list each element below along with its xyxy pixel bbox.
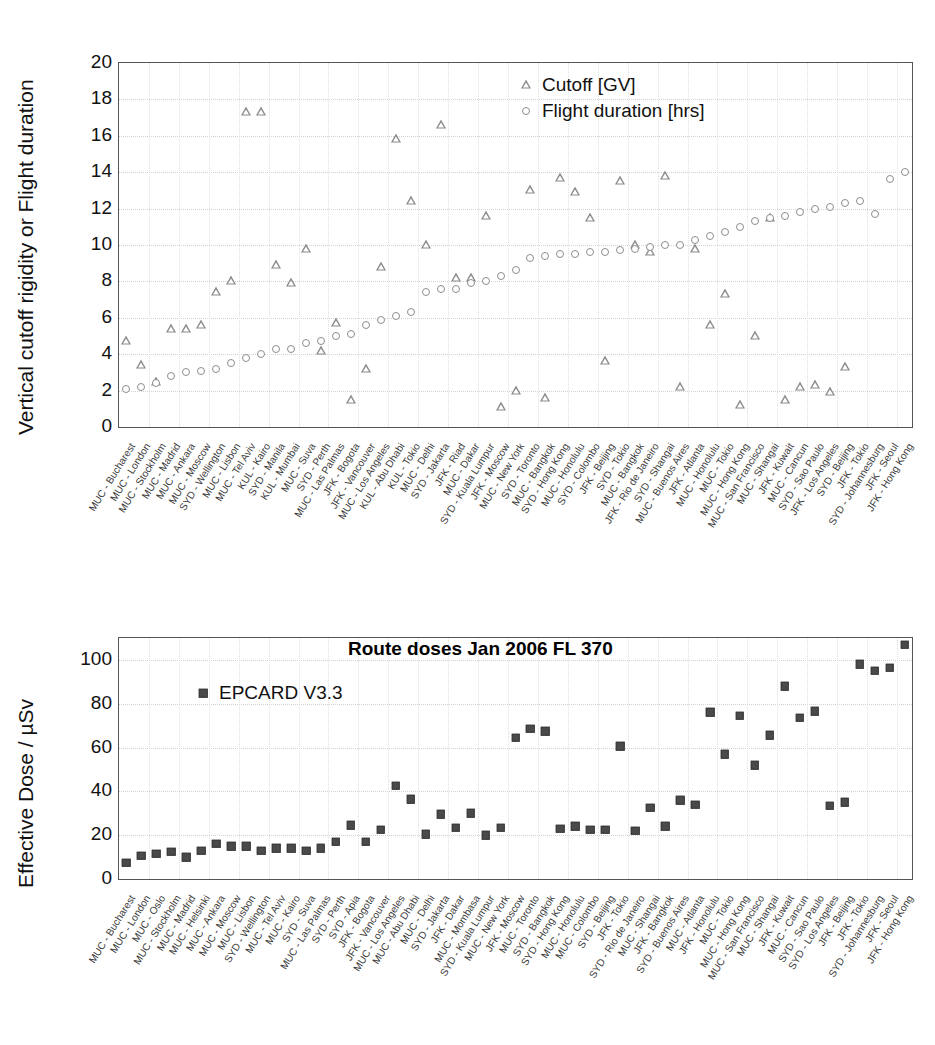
gridline-vertical bbox=[688, 638, 689, 879]
gridline-vertical bbox=[299, 63, 300, 427]
gridline-vertical bbox=[299, 638, 300, 879]
bottom-chart-x-tick-labels: MUC - BucharestMUC - LondonMUC - OsloMUC… bbox=[118, 884, 913, 1014]
data-point-circle bbox=[512, 266, 520, 274]
data-point-square bbox=[122, 858, 131, 867]
data-point-triangle bbox=[136, 360, 146, 369]
data-point-circle bbox=[616, 246, 624, 254]
data-point-triangle bbox=[750, 331, 760, 340]
data-point-circle bbox=[886, 175, 894, 183]
legend-label-cutoff: Cutoff [GV] bbox=[542, 74, 636, 96]
data-point-square bbox=[332, 838, 341, 847]
data-point-triangle bbox=[735, 400, 745, 409]
data-point-circle bbox=[227, 359, 235, 367]
data-point-triangle bbox=[391, 134, 401, 143]
gridline-vertical bbox=[867, 63, 868, 427]
data-point-circle bbox=[197, 367, 205, 375]
gridline-vertical bbox=[867, 638, 868, 879]
data-point-triangle bbox=[511, 385, 521, 394]
data-point-square bbox=[436, 810, 445, 819]
gridline-vertical bbox=[897, 638, 898, 879]
data-point-triangle bbox=[256, 107, 266, 116]
data-point-square bbox=[556, 824, 565, 833]
data-point-square bbox=[661, 822, 670, 831]
data-point-square bbox=[197, 846, 206, 855]
gridline-vertical bbox=[807, 63, 808, 427]
data-point-square bbox=[541, 727, 550, 736]
data-point-circle bbox=[631, 245, 639, 253]
data-point-square bbox=[676, 796, 685, 805]
data-point-circle bbox=[706, 232, 714, 240]
gridline-vertical bbox=[209, 638, 210, 879]
gridline-vertical bbox=[538, 638, 539, 879]
gridline-vertical bbox=[358, 638, 359, 879]
gridline-vertical bbox=[269, 63, 270, 427]
y-tick-label: 16 bbox=[91, 124, 112, 146]
gridline-vertical bbox=[837, 63, 838, 427]
data-point-circle bbox=[392, 312, 400, 320]
bottom-chart-title: Route doses Jan 2006 FL 370 bbox=[348, 638, 613, 660]
data-point-triangle bbox=[301, 243, 311, 252]
legend-label-flight-duration: Flight duration [hrs] bbox=[542, 100, 705, 122]
data-point-triangle bbox=[421, 240, 431, 249]
data-point-square bbox=[855, 660, 864, 669]
gridline-vertical bbox=[358, 63, 359, 427]
data-point-circle bbox=[736, 223, 744, 231]
data-point-triangle bbox=[585, 212, 595, 221]
gridline-vertical bbox=[269, 638, 270, 879]
data-point-triangle bbox=[406, 196, 416, 205]
data-point-circle bbox=[407, 308, 415, 316]
data-point-square bbox=[421, 830, 430, 839]
data-point-circle bbox=[796, 208, 804, 216]
data-point-circle bbox=[437, 285, 445, 293]
data-point-triangle bbox=[705, 320, 715, 329]
figure-root: Vertical cutoff rigidity or Flight durat… bbox=[0, 0, 935, 1045]
gridline-vertical bbox=[328, 63, 329, 427]
data-point-triangle bbox=[181, 323, 191, 332]
gridline-vertical bbox=[179, 638, 180, 879]
data-point-triangle bbox=[331, 318, 341, 327]
data-point-square bbox=[721, 750, 730, 759]
data-point-square bbox=[900, 640, 909, 649]
data-point-triangle bbox=[196, 320, 206, 329]
data-point-triangle bbox=[346, 394, 356, 403]
data-point-circle bbox=[751, 217, 759, 225]
circle-marker-icon bbox=[519, 104, 533, 118]
data-point-square bbox=[481, 831, 490, 840]
data-point-square bbox=[317, 844, 326, 853]
data-point-square bbox=[586, 825, 595, 834]
data-point-square bbox=[825, 801, 834, 810]
data-point-square bbox=[451, 823, 460, 832]
data-point-square bbox=[272, 844, 281, 853]
y-tick-label: 12 bbox=[91, 197, 112, 219]
data-point-triangle bbox=[810, 380, 820, 389]
data-point-triangle bbox=[825, 387, 835, 396]
data-point-square bbox=[242, 842, 251, 851]
y-tick-label: 100 bbox=[80, 648, 112, 670]
data-point-circle bbox=[332, 332, 340, 340]
gridline-vertical bbox=[807, 638, 808, 879]
bottom-chart-plot-area bbox=[118, 637, 913, 880]
data-point-triangle bbox=[795, 382, 805, 391]
data-point-square bbox=[751, 761, 760, 770]
gridline-vertical bbox=[777, 63, 778, 427]
data-point-triangle bbox=[600, 356, 610, 365]
data-point-triangle bbox=[540, 392, 550, 401]
gridline-vertical bbox=[508, 638, 509, 879]
data-point-triangle bbox=[615, 176, 625, 185]
data-point-circle bbox=[122, 385, 130, 393]
data-point-circle bbox=[362, 321, 370, 329]
data-point-square bbox=[810, 707, 819, 716]
gridline-vertical bbox=[897, 63, 898, 427]
data-point-triangle bbox=[271, 260, 281, 269]
square-marker-icon bbox=[196, 686, 210, 700]
data-point-square bbox=[137, 852, 146, 861]
gridline-vertical bbox=[179, 63, 180, 427]
gridline-vertical bbox=[478, 638, 479, 879]
gridline-vertical bbox=[328, 638, 329, 879]
data-point-triangle bbox=[690, 243, 700, 252]
data-point-square bbox=[407, 795, 416, 804]
gridline-vertical bbox=[658, 638, 659, 879]
data-point-triangle bbox=[376, 261, 386, 270]
data-point-circle bbox=[452, 285, 460, 293]
data-point-square bbox=[347, 821, 356, 830]
